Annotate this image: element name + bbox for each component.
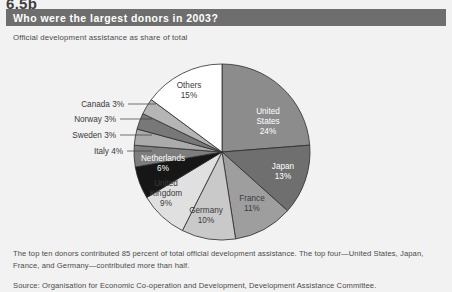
pie-label-france-text: France (239, 194, 265, 203)
pie-label-united-kingdom-value: 9% (160, 199, 172, 208)
pie-label-united-kingdom-text: United (154, 179, 178, 188)
pie-label-united-states-text: United (256, 107, 280, 116)
pie-chart: UnitedStates24%Japan13%France11%Germany1… (0, 46, 452, 244)
page-title: Who were the largest donors in 2003? (6, 12, 218, 24)
figure-caption: The top ten donors contributed 85 percen… (13, 248, 441, 271)
pie-label-netherlands-value: 6% (157, 164, 169, 173)
pie-label-united-states-value: 24% (260, 127, 276, 136)
pie-chart-svg: UnitedStates24%Japan13%France11%Germany1… (0, 46, 452, 244)
pie-label-netherlands-text: Netherlands (141, 154, 185, 163)
pie-label-japan-text: Japan (272, 162, 295, 171)
pie-label-japan-value: 13% (275, 172, 291, 181)
figure-source: Source: Organisation for Economic Co-ope… (13, 281, 443, 290)
figure-subtitle: Official development assistance as share… (13, 33, 188, 42)
pie-label-others-text: Others (177, 81, 202, 90)
pie-label-others-value: 15% (181, 91, 197, 100)
figure-page: 6.5b Who were the largest donors in 2003… (0, 0, 452, 292)
pie-label-united-states-text: States (256, 117, 279, 126)
pie-label-sweden: Sweden 3% (72, 131, 116, 140)
pie-label-norway: Norway 3% (74, 115, 116, 124)
pie-label-germany-value: 10% (198, 216, 214, 225)
pie-label-italy: Italy 4% (94, 147, 123, 156)
pie-label-germany-text: Germany (189, 206, 224, 215)
figure-header-bar: Who were the largest donors in 2003? (6, 9, 446, 26)
pie-label-canada: Canada 3% (81, 100, 124, 109)
pie-label-france-value: 11% (244, 204, 260, 213)
pie-label-united-kingdom-text: Kingdom (150, 189, 182, 198)
